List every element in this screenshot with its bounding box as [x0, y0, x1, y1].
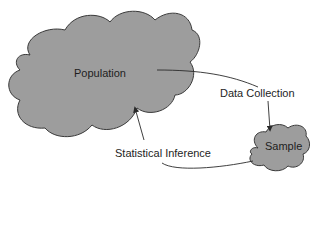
statistical-inference-label: Statistical Inference	[115, 148, 211, 159]
statistical-inference-arrow	[162, 161, 253, 168]
data-collection-arrow-head	[268, 101, 270, 130]
sample-label: Sample	[265, 141, 302, 152]
population-label: Population	[74, 68, 126, 79]
statistical-inference-arrow-head	[135, 108, 144, 140]
data-collection-label: Data Collection	[220, 88, 295, 99]
